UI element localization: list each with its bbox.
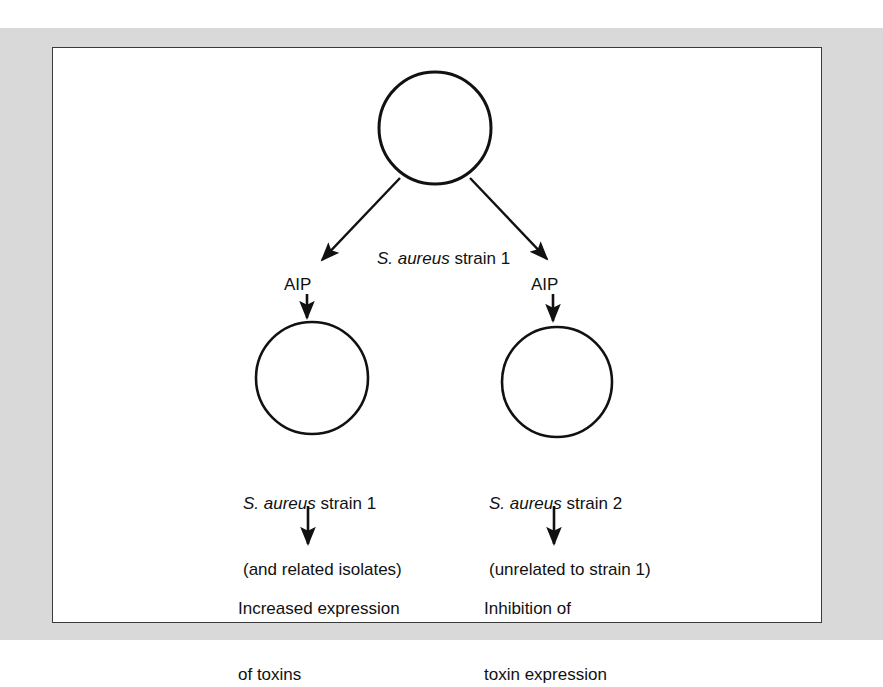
left-outcome-line2: of toxins	[238, 664, 400, 686]
right-outcome-line1: Inhibition of	[484, 598, 607, 620]
right-outcome-line2: toxin expression	[484, 664, 607, 686]
figure-panel	[52, 47, 822, 623]
left-outcome-label: Increased expression of toxins	[238, 554, 400, 687]
aip-label-left: AIP	[284, 274, 311, 296]
left-outcome-line1: Increased expression	[238, 598, 400, 620]
source-strain-genus: S. aureus	[377, 249, 450, 268]
left-target-strain-line1: S. aureus strain 1	[243, 493, 402, 515]
left-target-genus: S. aureus	[243, 494, 316, 513]
right-target-rest: strain 2	[562, 494, 622, 513]
right-target-genus: S. aureus	[489, 494, 562, 513]
source-strain-label: S. aureus strain 1	[358, 226, 510, 292]
source-strain-rest: strain 1	[450, 249, 510, 268]
aip-label-right: AIP	[531, 274, 558, 296]
right-outcome-label: Inhibition of toxin expression	[484, 554, 607, 687]
left-target-rest: strain 1	[316, 494, 376, 513]
right-target-strain-line1: S. aureus strain 2	[489, 493, 651, 515]
